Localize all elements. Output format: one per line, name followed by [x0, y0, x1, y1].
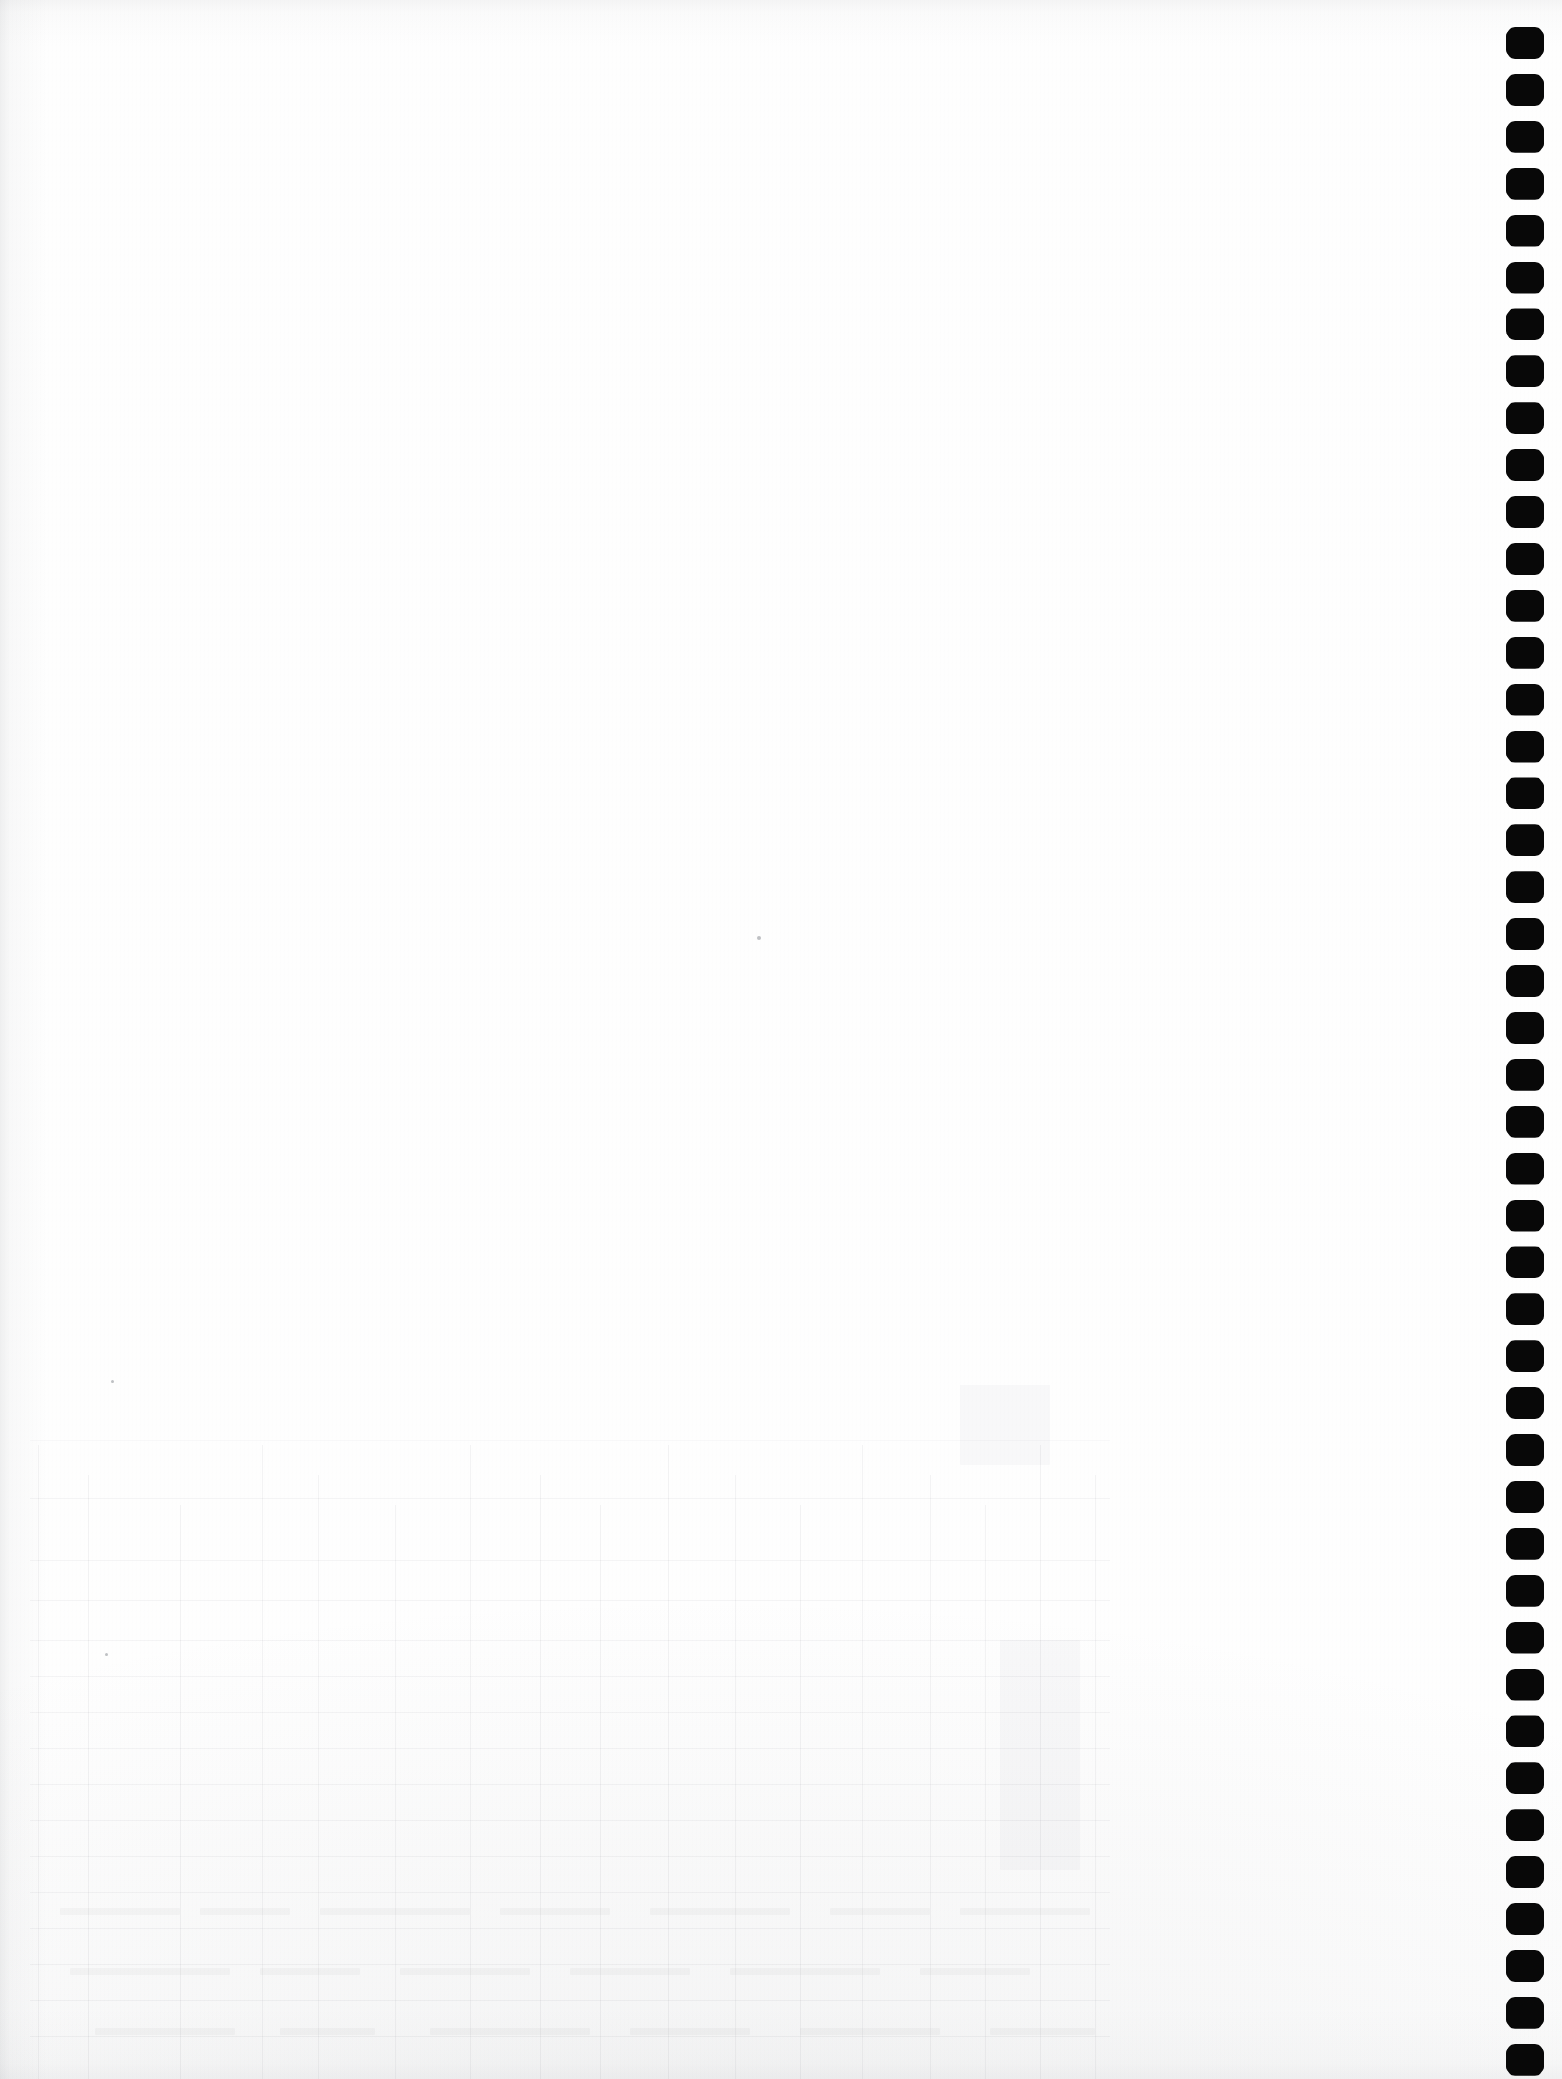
scan-speck: [105, 1653, 108, 1656]
scan-speck: [757, 936, 761, 940]
scan-speck: [111, 1380, 114, 1383]
scanned-page: [0, 0, 1562, 2079]
paper-sheet: [0, 0, 1562, 2079]
